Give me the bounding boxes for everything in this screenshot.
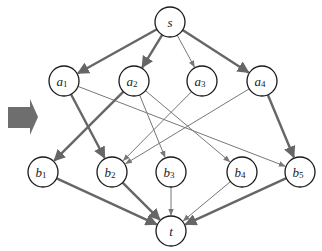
edge-a4-b5 xyxy=(268,95,294,157)
edge-a4-b2 xyxy=(126,89,250,164)
edge-b2-t xyxy=(123,183,160,220)
node-b5: b5 xyxy=(285,157,315,187)
node-label: t xyxy=(169,224,173,239)
edge-s-a1 xyxy=(78,29,157,73)
node-s: s xyxy=(155,7,185,37)
node-b3: b3 xyxy=(156,157,186,187)
diagram-svg: sa1a2a3a4b1b2b3b4b5t xyxy=(0,0,322,251)
edge-a1-b5 xyxy=(78,86,285,166)
node-a3: a3 xyxy=(187,66,217,96)
edge-s-a3 xyxy=(177,35,194,67)
edge-a2-b1 xyxy=(54,92,123,161)
edge-s-a4 xyxy=(183,30,249,72)
node-a4: a4 xyxy=(247,66,277,96)
node-b1: b1 xyxy=(28,157,58,187)
edge-s-a2 xyxy=(142,35,162,68)
node-b4: b4 xyxy=(227,157,257,187)
node-t: t xyxy=(156,216,186,246)
left-block-arrow-icon xyxy=(8,99,38,135)
node-b2: b2 xyxy=(97,157,127,187)
node-a2: a2 xyxy=(119,66,149,96)
node-label: s xyxy=(167,15,172,30)
node-a1: a1 xyxy=(49,66,79,96)
flow-network-diagram: sa1a2a3a4b1b2b3b4b5t xyxy=(0,0,322,251)
edges-layer xyxy=(54,29,293,224)
